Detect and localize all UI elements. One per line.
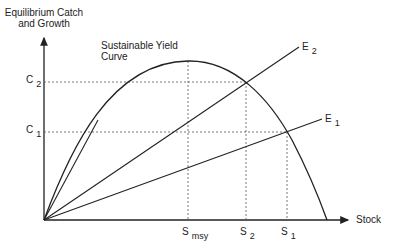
y-axis-title-line2: and Growth	[4, 18, 84, 29]
e1-line	[44, 119, 322, 220]
s2-main: S	[240, 226, 247, 237]
y-axis-title: Equilibrium Catch and Growth	[4, 7, 84, 29]
c1-main: C	[26, 124, 33, 135]
e2-label: E2	[302, 41, 317, 53]
c2-label: C2	[26, 74, 41, 86]
steep-line	[44, 120, 98, 220]
curve-label-line1: Sustainable Yield	[101, 40, 178, 51]
x-axis-label: Stock	[356, 214, 381, 225]
y-axis-title-line1: Equilibrium Catch	[4, 7, 84, 18]
e1-label: E1	[325, 113, 340, 125]
s1-sub: 1	[291, 231, 296, 241]
c2-main: C	[26, 74, 33, 85]
smsy-main: S	[182, 226, 189, 237]
c2-sub: 2	[36, 79, 41, 89]
e1-main: E	[325, 113, 332, 124]
e2-line	[44, 47, 299, 220]
smsy-label: Smsy	[182, 226, 208, 238]
s2-label: S2	[240, 226, 255, 238]
c1-label: C1	[26, 124, 41, 136]
e1-sub: 1	[335, 118, 340, 128]
curve-label-line2: Curve	[101, 51, 178, 62]
e2-sub: 2	[312, 46, 317, 56]
s2-sub: 2	[250, 231, 255, 241]
s1-label: S1	[281, 226, 296, 238]
s1-main: S	[281, 226, 288, 237]
e2-main: E	[302, 41, 309, 52]
curve-label: Sustainable Yield Curve	[101, 40, 178, 62]
c1-sub: 1	[36, 129, 41, 139]
smsy-sub: msy	[192, 231, 209, 241]
